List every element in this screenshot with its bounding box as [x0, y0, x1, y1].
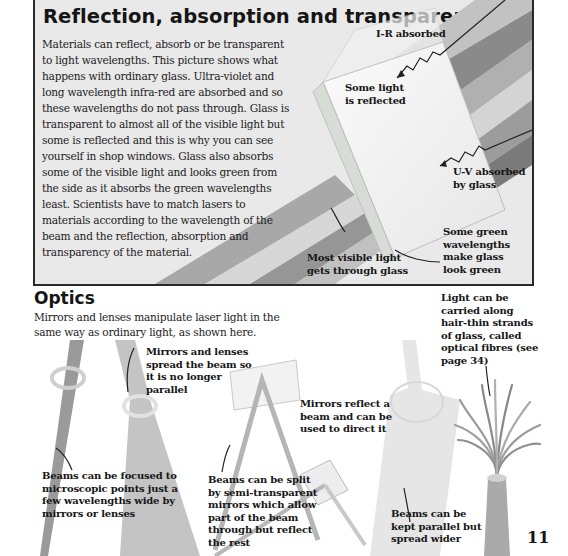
label-green-wavelengths: Some green wavelengths make glass look g… [443, 226, 523, 276]
label-uv-absorbed: U-V absorbed by glass [453, 166, 533, 191]
reflection-panel: Reflection, absorption and transparency … [33, 0, 534, 286]
label-some-light-reflected: Some light is reflected [345, 82, 415, 107]
label-optical-fibres: Light can be carried along hair-thin str… [441, 292, 541, 367]
label-ir-absorbed: I-R absorbed [376, 28, 446, 41]
focused-beam [40, 340, 84, 556]
label-beams-split: Beams can be split by semi-transparent m… [208, 474, 320, 549]
page-number: 11 [527, 528, 549, 547]
label-beams-parallel: Beams can be kept parallel but spread wi… [391, 508, 486, 546]
label-lenses-spread: Mirrors and lenses spread the beam so it… [146, 346, 261, 396]
label-beams-focused: Beams can be focused to microscopic poin… [42, 470, 182, 520]
reflection-body-text: Materials can reflect, absorb or be tran… [42, 36, 292, 260]
optics-intro-text: Mirrors and lenses manipulate laser ligh… [34, 310, 294, 340]
label-most-visible-light: Most visible light gets through glass [307, 252, 417, 277]
section-title-optics: Optics [34, 288, 95, 308]
label-mirrors-reflect: Mirrors reflect a beam and can be used t… [300, 398, 392, 436]
